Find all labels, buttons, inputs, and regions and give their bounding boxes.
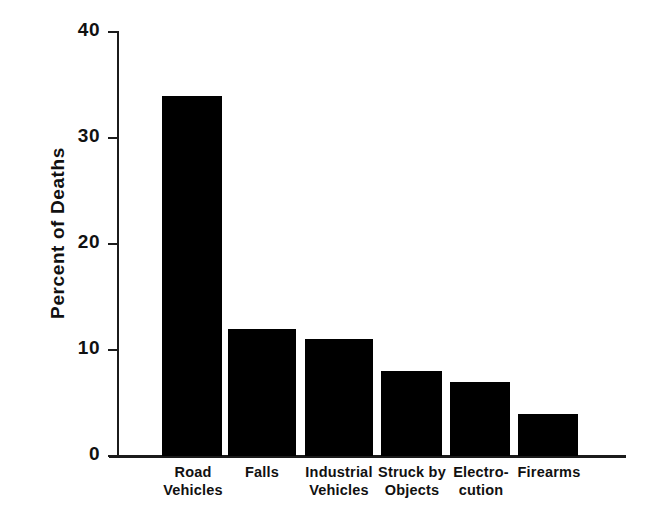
bar <box>450 382 510 456</box>
bar <box>162 96 222 456</box>
bar-chart: Percent of Deaths 010203040 RoadVehicles… <box>0 0 646 525</box>
x-tick-label-line: Vehicles <box>113 481 273 499</box>
bar <box>305 339 373 456</box>
x-axis-tick-labels: RoadVehiclesFallsIndustrialVehiclesStruc… <box>0 463 646 523</box>
x-tick-label-line: cution <box>401 481 561 499</box>
bar <box>228 329 296 456</box>
bars-container <box>0 0 646 456</box>
bar <box>381 371 442 456</box>
x-tick-label-line: Firearms <box>469 463 629 481</box>
x-tick-label: Firearms <box>469 463 629 481</box>
bar <box>518 414 578 456</box>
